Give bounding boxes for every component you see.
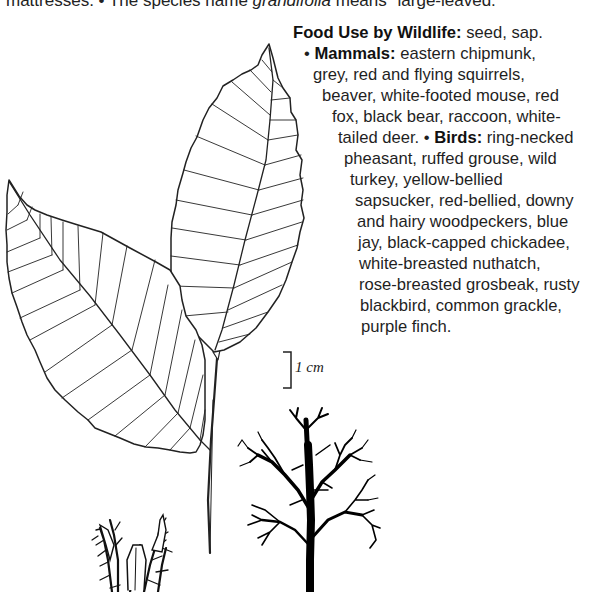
burr-illustration <box>92 515 172 592</box>
tree-silhouette-illustration <box>238 408 380 592</box>
leaf-branch-illustration <box>6 44 304 553</box>
scale-bracket-icon <box>283 352 291 388</box>
scale-bar-label: 1 cm <box>295 359 324 376</box>
beech-illustrations <box>0 0 608 592</box>
